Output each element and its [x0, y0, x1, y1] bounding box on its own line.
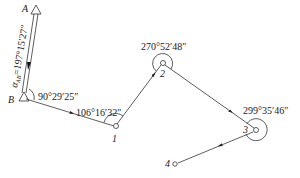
angle-b-label: 90°29′25″ — [38, 91, 78, 102]
angle-3-label: 299°35′46″ — [243, 105, 288, 116]
station-b-label: B — [8, 94, 14, 105]
station-a-label: A — [21, 3, 29, 14]
station-a-triangle-icon — [31, 5, 41, 14]
station-2-label: 2 — [160, 68, 165, 79]
leg-3-4 — [178, 132, 253, 163]
leg-2-3 — [165, 65, 254, 128]
angle-1-label: 106°16′32″ — [76, 107, 121, 118]
angle-2-label: 270°52′48″ — [141, 41, 186, 52]
traverse-diagram: A B αAB=197°15′27″ 90°29′25″ 106°16′32″ … — [0, 0, 300, 178]
station-4-icon — [173, 162, 177, 166]
station-2-icon — [161, 61, 166, 66]
station-3-label: 3 — [242, 124, 248, 135]
station-3-icon — [254, 128, 259, 133]
leg-1-2 — [117, 65, 161, 124]
angle-arc-b — [29, 89, 34, 100]
station-1-icon — [114, 124, 119, 129]
station-4-label: 4 — [165, 158, 170, 169]
station-1-label: 1 — [112, 133, 117, 144]
